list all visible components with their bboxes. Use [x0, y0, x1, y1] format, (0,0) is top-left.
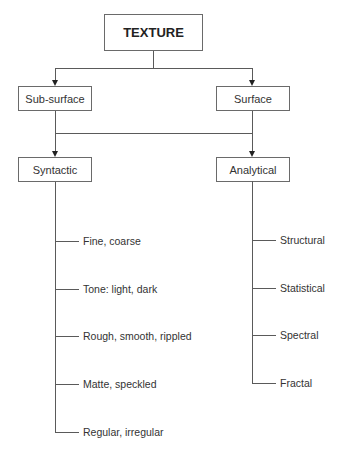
branch-line	[55, 432, 79, 433]
syntactic-box: Syntactic	[18, 157, 92, 182]
analytical-item-structural: Structural	[280, 234, 325, 246]
connector-line	[55, 133, 253, 134]
branch-line	[252, 240, 276, 241]
branch-line	[55, 336, 79, 337]
surface-label: Surface	[234, 93, 272, 105]
analytical-item-statistical: Statistical	[280, 282, 325, 294]
figure-caption-cropped	[0, 449, 338, 455]
analytical-item-fractal: Fractal	[280, 377, 312, 389]
branch-line	[55, 241, 79, 242]
syntactic-item-tone: Tone: light, dark	[83, 283, 157, 295]
analytical-box: Analytical	[216, 157, 290, 182]
branch-line	[55, 384, 79, 385]
connector-line	[55, 68, 253, 69]
branch-line	[252, 383, 276, 384]
connector-line	[252, 111, 253, 152]
syntactic-trunk-line	[55, 182, 56, 433]
analytical-trunk-line	[252, 181, 253, 384]
sub-surface-box: Sub-surface	[18, 86, 92, 111]
syntactic-item-rough: Rough, smooth, rippled	[83, 330, 192, 342]
connector-line	[55, 111, 56, 152]
branch-line	[252, 335, 276, 336]
analytical-label: Analytical	[229, 164, 276, 176]
surface-box: Surface	[216, 86, 290, 111]
branch-line	[55, 289, 79, 290]
syntactic-item-regular: Regular, irregular	[83, 426, 164, 438]
syntactic-item-matte: Matte, speckled	[83, 378, 157, 390]
sub-surface-label: Sub-surface	[25, 93, 84, 105]
branch-line	[252, 288, 276, 289]
syntactic-label: Syntactic	[33, 164, 78, 176]
texture-root-box: TEXTURE	[104, 14, 203, 51]
syntactic-item-fine-coarse: Fine, coarse	[83, 235, 141, 247]
connector-line	[153, 51, 154, 68]
texture-root-label: TEXTURE	[123, 25, 184, 40]
analytical-item-spectral: Spectral	[280, 329, 319, 341]
